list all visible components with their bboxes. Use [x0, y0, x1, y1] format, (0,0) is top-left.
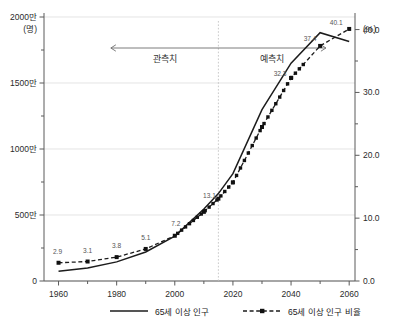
right-axis-tick-label: 0.0 [363, 276, 375, 286]
data-point-value-label: 2.9 [53, 248, 62, 255]
x-axis-ticks [59, 281, 350, 286]
series-markers-ratio [57, 27, 352, 265]
series-line-ratio [59, 29, 350, 263]
left-axis-major-ticks [40, 17, 45, 281]
left-axis-tick-label: 1500만 [10, 78, 37, 88]
right-axis-unit-label: (%) [363, 24, 376, 34]
gridlines [44, 17, 355, 281]
right-axis-tick-label: 20.0 [363, 150, 380, 160]
legend-label-ratio: 65세 이상 인구 비율 [288, 307, 361, 317]
data-point-value-label: 3.8 [112, 242, 121, 249]
chart-container: 관측치 예측치 0500만1000만1500만2000만 0.010.020.0… [0, 0, 402, 325]
data-point-value-label: 5.1 [141, 234, 150, 241]
series-line-population [59, 33, 350, 272]
right-axis-tick-labels: 0.010.020.030.040.0 [363, 25, 380, 286]
data-point-value-label: 13.1 [203, 192, 216, 199]
data-point-value-label: 37.4 [304, 35, 317, 42]
forecast-period-label: 예측치 [260, 53, 284, 64]
x-axis-tick-label: 2000 [165, 289, 184, 299]
observed-period-label: 관측치 [153, 53, 177, 64]
left-axis-unit-label: (명) [23, 24, 37, 34]
x-axis-tick-labels: 196019802000202020402060 [49, 289, 359, 299]
left-axis-tick-label: 2000만 [10, 12, 37, 22]
left-axis-tick-label: 0 [32, 276, 37, 286]
right-axis-tick-label: 30.0 [363, 87, 380, 97]
data-point-value-label: 7.2 [171, 220, 180, 227]
legend-label-population: 65세 이상 인구 [155, 307, 209, 317]
right-axis-major-ticks [355, 30, 360, 281]
data-point-value-label: 3.1 [83, 247, 92, 254]
legend-marker-ratio-icon [260, 309, 264, 313]
chart-legend: 65세 이상 인구 65세 이상 인구 비율 [110, 307, 361, 317]
left-axis-tick-label: 500만 [15, 210, 37, 220]
population-aging-chart: 관측치 예측치 0500만1000만1500만2000만 0.010.020.0… [0, 0, 402, 325]
left-axis-tick-label: 1000만 [10, 144, 37, 154]
data-point-value-label: 40.1 [330, 19, 343, 26]
x-axis-tick-label: 1960 [49, 289, 68, 299]
x-axis-tick-label: 2020 [223, 289, 242, 299]
left-axis-tick-labels: 0500만1000만1500만2000만 [10, 12, 37, 286]
x-axis-tick-label: 1980 [107, 289, 126, 299]
data-point-value-label: 32.3 [274, 70, 287, 77]
right-axis-tick-label: 10.0 [363, 213, 380, 223]
x-axis-tick-label: 2060 [340, 289, 359, 299]
x-axis-tick-label: 2040 [282, 289, 301, 299]
